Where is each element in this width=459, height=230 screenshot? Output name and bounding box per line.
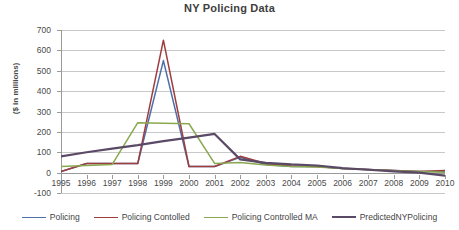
- series-lines: [61, 30, 445, 193]
- legend-label: Policing Controlled MA: [232, 212, 318, 222]
- y-tick-mark: [57, 132, 61, 133]
- legend-color-swatch: [204, 217, 228, 218]
- legend-color-swatch: [22, 217, 46, 218]
- legend-item[interactable]: Policing Contolled: [94, 212, 190, 222]
- y-tick-mark: [57, 173, 61, 174]
- y-tick-label: 200: [37, 127, 51, 137]
- chart-title: NY Policing Data: [0, 2, 459, 14]
- y-tick-mark: [57, 30, 61, 31]
- legend-label: Policing Contolled: [122, 212, 190, 222]
- y-tick-label: 700: [37, 25, 51, 35]
- legend-color-swatch: [332, 216, 356, 218]
- series-line-policing-contolled: [61, 40, 445, 171]
- y-tick-label: 0: [46, 168, 51, 178]
- y-tick-label: 500: [37, 66, 51, 76]
- legend-item[interactable]: Policing: [22, 212, 80, 222]
- y-tick-mark: [57, 50, 61, 51]
- y-tick-label: 300: [37, 107, 51, 117]
- y-tick-mark: [57, 71, 61, 72]
- y-tick-mark: [57, 91, 61, 92]
- chart-legend: PolicingPolicing ContolledPolicing Contr…: [0, 206, 459, 228]
- y-tick-label: 100: [37, 147, 51, 157]
- y-tick-label: 400: [37, 86, 51, 96]
- y-tick-mark: [57, 193, 61, 194]
- y-tick-label: 600: [37, 45, 51, 55]
- y-tick-label: -100: [34, 188, 51, 198]
- chart-container: NY Policing Data ($ in millions) 7006005…: [0, 0, 459, 230]
- legend-item[interactable]: Policing Controlled MA: [204, 212, 318, 222]
- legend-label: PredictedNYPolicing: [360, 212, 437, 222]
- legend-color-swatch: [94, 217, 118, 218]
- y-axis-tick-labels: 7006005004003002001000-100: [0, 0, 56, 230]
- legend-item[interactable]: PredictedNYPolicing: [332, 212, 437, 222]
- y-tick-mark: [57, 152, 61, 153]
- gridline--100: [61, 193, 445, 194]
- y-tick-mark: [57, 112, 61, 113]
- legend-label: Policing: [50, 212, 80, 222]
